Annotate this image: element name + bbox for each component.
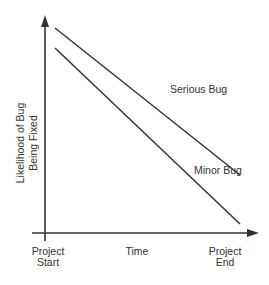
serious-bug-line [55, 28, 240, 175]
minor-bug-line [55, 48, 240, 224]
x-tick-start-line-2: Start [37, 256, 59, 268]
y-axis-label: Likelihood of Bug Being Fixed [14, 103, 39, 184]
bug-fix-likelihood-diagram: Serious Bug Minor Bug Likelihood of Bug … [0, 0, 269, 285]
y-axis-arrow-icon [41, 15, 49, 27]
x-axis-label: Time [126, 245, 149, 257]
serious-bug-label: Serious Bug [170, 83, 227, 95]
x-axis-arrow-icon [247, 229, 259, 237]
x-tick-end-line-2: End [216, 256, 235, 268]
y-axis-label-line-1: Likelihood of Bug [14, 103, 26, 184]
y-axis-label-line-2: Being Fixed [27, 115, 39, 171]
minor-bug-label: Minor Bug [194, 164, 242, 176]
